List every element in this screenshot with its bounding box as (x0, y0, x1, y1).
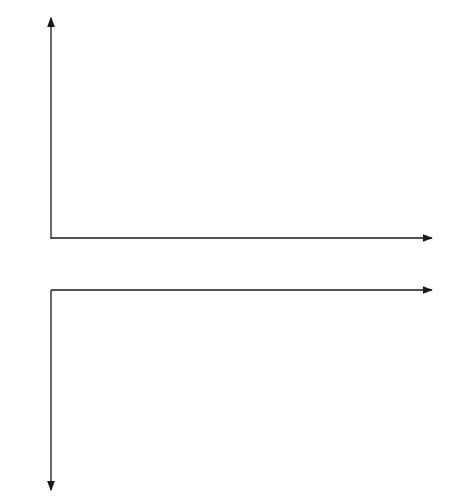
bottom-chart (51, 290, 432, 490)
figure-canvas (0, 0, 449, 502)
top-chart (51, 18, 432, 239)
